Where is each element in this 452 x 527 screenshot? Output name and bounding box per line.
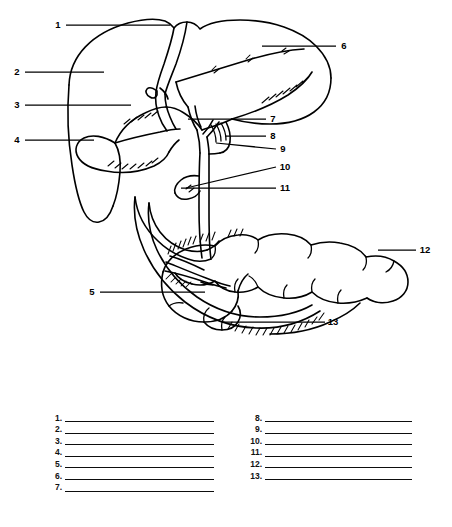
answer-blanks: 1. 2. 3. 4. 5. 6. [0, 412, 452, 527]
right-lobe-hatching [262, 77, 308, 103]
callout-number-12: 12 [420, 244, 431, 255]
answer-blank-line[interactable] [265, 421, 412, 422]
gallbladder-neck [169, 140, 179, 152]
answer-row[interactable]: 5. [36, 458, 216, 470]
worksheet-page: 1 2 3 4 5 6 7 8 9 10 11 12 13 1. [0, 0, 452, 527]
answer-row[interactable]: 7. [36, 482, 216, 494]
duodenum-inner-c-loop [148, 203, 312, 317]
gallbladder-upper-edge [115, 129, 180, 143]
answer-row[interactable]: 10. [236, 435, 416, 447]
answer-row[interactable]: 12. [236, 458, 416, 470]
answer-row[interactable]: 2. [36, 424, 216, 436]
answer-number: 3. [36, 437, 62, 447]
callout-number-13: 13 [328, 316, 339, 327]
answer-number: 13. [236, 472, 262, 482]
liver-inner-surface-line-lower [176, 82, 188, 107]
answer-blank-line[interactable] [265, 479, 412, 480]
accessory-duct-branch [175, 176, 199, 193]
answer-blank-line[interactable] [65, 433, 214, 434]
falciform-ligament-lower-right [165, 94, 176, 129]
common-bile-duct-right [209, 154, 211, 259]
duodenum-horizontal-part-upper [270, 303, 360, 334]
answer-row[interactable]: 11. [236, 447, 416, 459]
answer-number: 7. [36, 483, 62, 493]
answer-column-right: 8. 9. 10. 11. 12. 13. [236, 412, 416, 482]
answer-number: 9. [236, 425, 262, 435]
callout-number-11: 11 [280, 182, 291, 193]
cystic-duct-join [209, 153, 220, 154]
answer-blank-line[interactable] [265, 467, 412, 468]
duodenum-outer-c-loop [134, 197, 320, 328]
answer-row[interactable]: 4. [36, 447, 216, 459]
answer-column-left: 1. 2. 3. 4. 5. 6. [36, 412, 216, 493]
liver-outline-group [68, 19, 408, 335]
callout-number-9: 9 [280, 143, 285, 154]
answer-blank-line[interactable] [65, 456, 214, 457]
answer-blank-line[interactable] [65, 444, 214, 445]
callout-number-7: 7 [270, 113, 275, 124]
cystic-duct-outer [220, 122, 230, 153]
pancreas-head-lower [232, 291, 238, 311]
answer-number: 6. [36, 472, 62, 482]
callout-number-1: 1 [55, 19, 61, 30]
leader-lines-group [25, 25, 416, 322]
answer-blank-line[interactable] [265, 444, 412, 445]
answer-row[interactable]: 1. [36, 412, 216, 424]
callout-numbers-group: 1 2 3 4 5 6 7 8 9 10 11 12 13 [14, 19, 430, 327]
answer-number: 8. [236, 414, 262, 424]
answer-blank-line[interactable] [65, 421, 214, 422]
callout-number-10: 10 [280, 161, 291, 172]
pancreas-inferior-border [192, 281, 367, 303]
answer-blank-line[interactable] [65, 491, 214, 492]
leader-line-9 [216, 143, 276, 149]
accessory-duct-branch-lower [175, 191, 200, 199]
callout-number-6: 6 [341, 40, 346, 51]
callout-number-4: 4 [14, 134, 20, 145]
callout-number-2: 2 [14, 66, 19, 77]
answer-row[interactable]: 6. [36, 470, 216, 482]
callout-number-8: 8 [270, 130, 275, 141]
liver-right-lobe-contour [232, 78, 331, 124]
answer-blank-line[interactable] [65, 479, 214, 480]
anatomy-figure: 1 2 3 4 5 6 7 8 9 10 11 12 13 [0, 0, 452, 410]
answer-blank-line[interactable] [65, 467, 214, 468]
pancreas-neck-divider [238, 274, 248, 291]
answer-blank-line[interactable] [265, 456, 412, 457]
answer-number: 1. [36, 414, 62, 424]
answer-number: 11. [236, 448, 262, 458]
liver-surface-ticks [212, 48, 289, 73]
common-hepatic-duct-left [197, 130, 200, 153]
answer-number: 2. [36, 425, 62, 435]
answer-number: 5. [36, 460, 62, 470]
right-lobe-inferior-edge [232, 72, 312, 119]
answer-row[interactable]: 8. [236, 412, 416, 424]
answer-number: 10. [236, 437, 262, 447]
common-bile-duct-left [199, 153, 202, 258]
answer-row[interactable]: 3. [36, 435, 216, 447]
answer-row[interactable]: 13. [236, 470, 416, 482]
falciform-ligament-left-edge [156, 28, 174, 92]
answer-number: 12. [236, 460, 262, 470]
answer-number: 4. [36, 448, 62, 458]
liver-left-lobe-tip-inner [113, 143, 120, 206]
common-hepatic-duct-right [207, 137, 209, 154]
answer-blank-line[interactable] [265, 433, 412, 434]
callout-number-5: 5 [89, 286, 95, 297]
callout-number-3: 3 [14, 99, 19, 110]
answer-row[interactable]: 9. [236, 424, 416, 436]
